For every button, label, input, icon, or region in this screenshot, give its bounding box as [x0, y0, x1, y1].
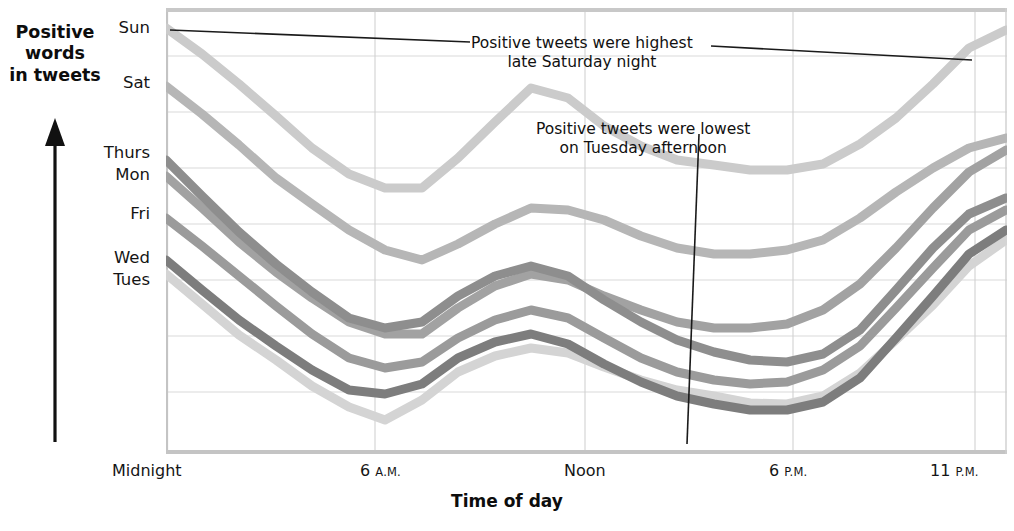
- y-tick-wed: Wed: [114, 250, 150, 267]
- x-tick-6pm: 6 P.M.: [769, 461, 807, 480]
- x-tick-11pm: 11 P.M.: [930, 461, 979, 480]
- annotation-highest-line-2: late Saturday night: [471, 53, 693, 72]
- leader-high-right: [711, 46, 972, 60]
- x-tick-11pm-meridiem: P.M.: [955, 465, 978, 479]
- x-tick-6am: 6 A.M.: [360, 461, 401, 480]
- y-axis-tick-labels: Sun Sat Thurs Mon Fri Wed Tues: [0, 0, 160, 470]
- x-tick-6pm-main: 6: [769, 461, 779, 480]
- annotation-lowest-line-2: on Tuesday afternoon: [536, 139, 750, 158]
- x-tick-midnight: Midnight: [112, 461, 182, 480]
- y-tick-sat: Sat: [123, 75, 150, 92]
- leader-high-left: [170, 30, 470, 42]
- y-tick-fri: Fri: [130, 206, 150, 223]
- y-tick-sun: Sun: [119, 20, 150, 37]
- x-tick-6am-meridiem: A.M.: [375, 465, 401, 479]
- x-tick-6am-main: 6: [360, 461, 370, 480]
- x-axis-tick-labels: Midnight 6 A.M. Noon 6 P.M. 11 P.M.: [0, 461, 1014, 485]
- x-tick-11pm-main: 11: [930, 461, 950, 480]
- annotation-highest-line-1: Positive tweets were highest: [471, 34, 693, 53]
- annotation-lowest: Positive tweets were lowest on Tuesday a…: [536, 120, 750, 159]
- y-tick-thurs: Thurs: [104, 145, 150, 162]
- x-tick-midnight-main: Midnight: [112, 461, 182, 480]
- y-tick-tues: Tues: [113, 272, 150, 289]
- x-tick-noon-main: Noon: [564, 461, 606, 480]
- x-tick-noon: Noon: [564, 461, 606, 480]
- plot-area: Positive tweets were highest late Saturd…: [166, 8, 1007, 455]
- plot-frame: [166, 8, 1007, 454]
- horizontal-gridlines: [166, 56, 1007, 392]
- chart-figure: Positive words in tweets Sun Sat Thurs M…: [0, 0, 1014, 531]
- x-axis-title: Time of day: [0, 491, 1014, 511]
- x-tick-6pm-meridiem: P.M.: [784, 465, 807, 479]
- y-tick-mon: Mon: [115, 167, 150, 184]
- annotation-lowest-line-1: Positive tweets were lowest: [536, 120, 750, 139]
- chart-canvas: [166, 8, 1007, 455]
- annotation-highest: Positive tweets were highest late Saturd…: [471, 34, 693, 73]
